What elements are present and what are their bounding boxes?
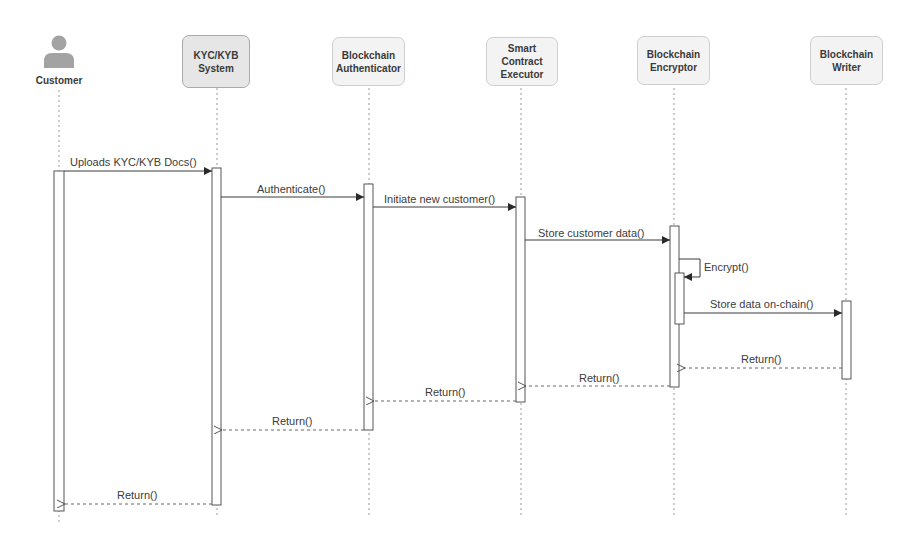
- participant-blockchain-encryptor: Blockchain Encryptor: [637, 36, 710, 85]
- participant-customer-label: Customer: [24, 75, 94, 86]
- customer-actor-icon: [44, 36, 74, 69]
- participant-blockchain-authenticator: Blockchain Authenticator: [332, 37, 405, 86]
- sequence-diagram-canvas: [0, 0, 918, 543]
- activation-writer: [842, 301, 851, 379]
- message-label-authenticate: Authenticate(): [257, 183, 325, 195]
- message-label-encrypt: Encrypt(): [704, 261, 749, 273]
- return-label-enc-exec: Return(): [579, 372, 619, 384]
- message-label-initiate: Initiate new customer(): [384, 193, 495, 205]
- message-label-store-onchain: Store data on-chain(): [710, 298, 813, 310]
- activation-customer: [54, 171, 64, 511]
- activation-enc-nested: [675, 273, 684, 324]
- return-label-auth-kyc: Return(): [272, 415, 312, 427]
- return-label-exec-auth: Return(): [425, 386, 465, 398]
- activation-kyc: [212, 168, 221, 505]
- return-label-kyc-customer: Return(): [117, 489, 157, 501]
- return-label-writer-enc: Return(): [741, 353, 781, 365]
- participant-kyc-system: KYC/KYB System: [182, 35, 250, 88]
- activation-exec: [516, 197, 525, 402]
- message-label-store-customer: Store customer data(): [538, 227, 644, 239]
- message-label-uploads: Uploads KYC/KYB Docs(): [70, 156, 197, 168]
- participant-smart-contract-executor: Smart Contract Executor: [486, 37, 558, 86]
- participant-blockchain-writer: Blockchain Writer: [810, 36, 883, 85]
- activation-auth: [364, 184, 373, 430]
